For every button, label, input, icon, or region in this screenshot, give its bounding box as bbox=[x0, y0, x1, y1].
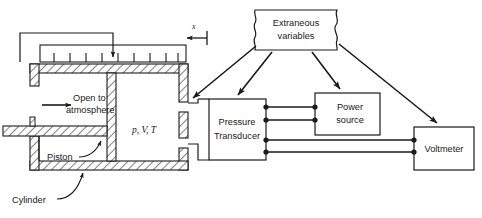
cylinder-right-wall-upper bbox=[179, 64, 188, 102]
arrow-extraneous-to-cylinder bbox=[193, 46, 256, 98]
pressure-tap-pipe-lower bbox=[188, 144, 209, 160]
open-to-atmosphere-label-line1: Open to bbox=[73, 93, 106, 103]
pressure-transducer-label-line1: Pressure bbox=[219, 117, 256, 127]
piston-rod bbox=[3, 126, 107, 136]
voltmeter-label: Voltmeter bbox=[425, 144, 464, 154]
displacement-scale bbox=[20, 33, 186, 62]
power-source-box-outline bbox=[315, 93, 380, 135]
cylinder-bottom-wall bbox=[30, 161, 188, 170]
cylinder-top-wall bbox=[30, 64, 188, 73]
piston-head bbox=[107, 73, 116, 161]
open-to-atmosphere-label-line2: atmosphere bbox=[66, 105, 115, 115]
block-pressure-transducer[interactable]: Pressure Transducer bbox=[209, 99, 266, 160]
terminal-dot-voltmeter-2 bbox=[411, 149, 416, 154]
terminal-dot-voltmeter-1 bbox=[411, 137, 416, 142]
arrow-extraneous-to-power-source bbox=[312, 52, 340, 89]
schematic-svg: p, V, T Open to atmosphere Piston Cylind… bbox=[0, 0, 482, 218]
pressure-transducer-box-outline bbox=[209, 99, 266, 160]
cylinder-left-wall-upper bbox=[30, 64, 39, 86]
cylinder-left-wall-lower bbox=[30, 136, 39, 170]
arrow-extraneous-to-pressure-transducer bbox=[238, 52, 272, 95]
piston-label: Piston bbox=[47, 152, 73, 162]
pressure-tap-pipes bbox=[188, 99, 209, 160]
block-power-source[interactable]: Power source bbox=[315, 93, 380, 135]
terminal-dot-power-2 bbox=[312, 117, 317, 122]
diagram-canvas: p, V, T Open to atmosphere Piston Cylind… bbox=[0, 0, 482, 218]
pressure-tap-pipe-upper bbox=[188, 99, 198, 103]
cylinder-leader-line bbox=[57, 173, 83, 199]
extraneous-variables-box-outline bbox=[254, 10, 337, 50]
state-variables-label: p, V, T bbox=[131, 125, 157, 135]
cylinder-assembly: p, V, T Open to atmosphere Piston Cylind… bbox=[3, 64, 188, 205]
piston-leader-line bbox=[79, 141, 101, 157]
extraneous-variables-label-line2: variables bbox=[278, 31, 315, 41]
rod-seal-notch bbox=[30, 117, 35, 126]
x-direction-indicator: x bbox=[187, 22, 207, 45]
pressure-transducer-label-line2: Transducer bbox=[214, 131, 260, 141]
cylinder-label: Cylinder bbox=[12, 195, 46, 205]
power-source-label-line1: Power bbox=[337, 102, 363, 112]
terminal-dot-power-1 bbox=[312, 104, 317, 109]
terminal-dot-transducer-1 bbox=[263, 104, 268, 109]
block-voltmeter[interactable]: Voltmeter bbox=[414, 127, 474, 170]
block-extraneous-variables[interactable]: Extraneous variables bbox=[254, 10, 337, 50]
terminal-dot-transducer-3 bbox=[263, 137, 268, 142]
cylinder-right-wall-middle bbox=[179, 112, 188, 138]
extraneous-variables-label-line1: Extraneous bbox=[273, 18, 320, 28]
x-axis-label: x bbox=[191, 22, 196, 31]
terminal-dot-transducer-2 bbox=[263, 117, 268, 122]
terminal-dot-transducer-4 bbox=[263, 149, 268, 154]
power-source-label-line2: source bbox=[336, 115, 364, 125]
